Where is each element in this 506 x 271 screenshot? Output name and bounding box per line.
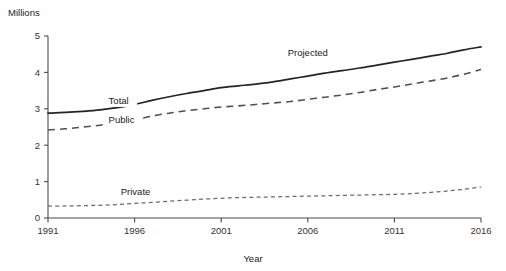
chart-annotations: Projected: [288, 47, 328, 58]
total-series-label: Total: [109, 95, 129, 106]
y-axis-tick-label: 2: [35, 140, 40, 151]
y-axis-unit-label: Millions: [8, 7, 40, 18]
x-axis: 199119962001200620112016: [37, 218, 491, 236]
x-axis-tick-label: 2006: [297, 225, 318, 236]
x-axis-tick-label: 2016: [470, 225, 491, 236]
y-axis-tick-label: 1: [35, 176, 40, 187]
y-axis-tick-label: 4: [35, 67, 40, 78]
x-axis-tick-label: 1996: [124, 225, 145, 236]
projected-annotation: Projected: [288, 47, 328, 58]
series-labels: TotalPublicPrivate: [107, 95, 160, 198]
x-axis-tick-label: 1991: [37, 225, 58, 236]
x-axis-tick-label: 2011: [384, 225, 404, 236]
line-chart: Millions 012345 199119962001200620112016…: [0, 0, 506, 271]
x-axis-title: Year: [243, 253, 262, 264]
public-series-label: Public: [109, 114, 135, 125]
y-axis-tick-label: 3: [35, 103, 40, 114]
private-series-label: Private: [121, 186, 151, 197]
chart-container: Millions 012345 199119962001200620112016…: [0, 0, 506, 271]
series-line-private: [48, 187, 481, 206]
x-axis-tick-label: 2001: [211, 225, 232, 236]
y-axis: 012345: [35, 30, 48, 223]
y-axis-tick-label: 0: [35, 212, 40, 223]
y-axis-tick-label: 5: [35, 30, 40, 41]
